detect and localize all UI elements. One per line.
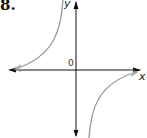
curve-branch-lower-right xyxy=(89,72,136,138)
x-axis-label: x xyxy=(139,70,146,83)
curve-branch-upper-left xyxy=(16,0,63,69)
y-axis-label: y xyxy=(64,0,71,10)
x-axis-left-arrow-icon xyxy=(8,68,16,73)
y-axis-down-arrow-icon xyxy=(74,130,79,137)
origin-label: 0 xyxy=(68,58,74,68)
graph xyxy=(0,0,147,138)
y-axis-up-arrow-icon xyxy=(74,1,79,9)
